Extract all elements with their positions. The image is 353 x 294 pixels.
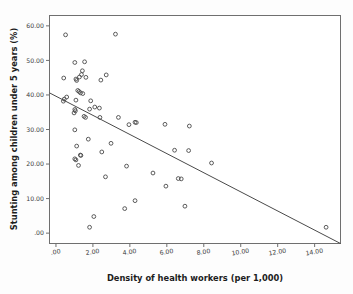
plot-frame <box>50 16 341 244</box>
y-tick-label: 20.00 <box>26 160 44 167</box>
y-tick-label: 10.00 <box>26 195 44 202</box>
scatter-plot-svg: .0010.0020.0030.0040.0050.0060.00 .002.0… <box>0 0 353 294</box>
y-tick-label: 60.00 <box>26 22 44 29</box>
y-tick-label: 40.00 <box>26 91 44 98</box>
y-axis-title: Stunting among children under 5 years (%… <box>9 28 19 231</box>
y-tick-label: .00 <box>34 229 44 236</box>
x-axis-title: Density of health workers (per 1,000) <box>107 273 283 283</box>
y-tick-label: 30.00 <box>26 126 44 133</box>
y-tick-label: 50.00 <box>26 57 44 64</box>
scatter-chart-container: .0010.0020.0030.0040.0050.0060.00 .002.0… <box>0 0 353 294</box>
